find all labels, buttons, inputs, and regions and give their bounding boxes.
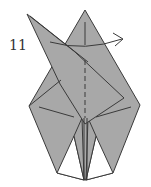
origami-diagram	[0, 0, 151, 187]
